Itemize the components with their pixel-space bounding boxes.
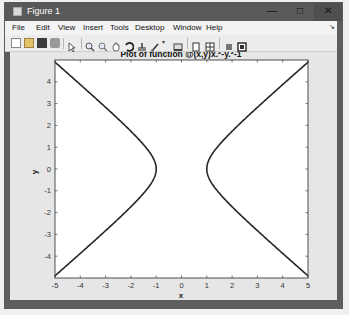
x-tick-label: 5 <box>306 281 310 290</box>
x-tick-label: 0 <box>179 281 183 290</box>
y-tick-label: 3 <box>47 99 51 108</box>
toolbar-separator <box>187 38 188 49</box>
x-axis-label: x <box>179 291 184 300</box>
window-border-bottom <box>5 300 342 308</box>
y-tick-label: 0 <box>47 165 51 174</box>
x-tick-label: -1 <box>153 281 160 290</box>
x-tick-label: 1 <box>205 281 209 290</box>
menu-file[interactable]: File <box>12 23 25 32</box>
figure-window: Figure 1 — □ ✕ File Edit View Insert Too… <box>5 3 342 308</box>
hide-plot-tools-icon[interactable] <box>224 38 234 48</box>
toolbar-separator <box>81 38 82 49</box>
y-tick-label: -3 <box>44 230 51 239</box>
insert-legend-icon[interactable] <box>205 38 215 48</box>
axes-box <box>55 60 308 278</box>
chart-title: Plot of function @(x,y)x.2-y.2-1 <box>120 52 241 59</box>
insert-colorbar-icon[interactable] <box>191 38 201 48</box>
show-plot-tools-icon[interactable] <box>237 38 247 48</box>
x-tick-label: -4 <box>77 281 84 290</box>
toolbar-separator <box>63 38 64 49</box>
y-tick-label: -1 <box>44 186 51 195</box>
y-tick-label: 2 <box>47 121 51 130</box>
close-icon: ✕ <box>314 5 342 16</box>
window-title: Figure 1 <box>27 6 60 16</box>
minimize-icon: — <box>258 5 286 16</box>
x-tick-label: 2 <box>230 281 234 290</box>
brush-icon[interactable] <box>150 38 160 48</box>
close-button[interactable]: ✕ <box>314 3 342 21</box>
figure-canvas: -5-4-3-2-1012345 -4-3-2-101234 Plot of f… <box>10 52 337 300</box>
menu-edit[interactable]: Edit <box>36 23 50 32</box>
x-tick-label: -3 <box>102 281 109 290</box>
link-plot-icon[interactable] <box>173 38 183 48</box>
menu-tools[interactable]: Tools <box>110 23 129 32</box>
edit-plot-arrow-icon[interactable] <box>67 38 77 48</box>
y-tick-label: -2 <box>44 208 51 217</box>
maximize-icon: □ <box>286 5 314 16</box>
zoom-in-icon[interactable] <box>85 38 95 48</box>
y-tick-label: -4 <box>44 252 51 261</box>
pan-hand-icon[interactable] <box>111 38 121 48</box>
new-figure-icon[interactable] <box>11 38 21 48</box>
plot-axes[interactable]: -5-4-3-2-1012345 -4-3-2-101234 Plot of f… <box>10 52 337 300</box>
dock-figure-icon[interactable]: ↘ <box>329 23 335 31</box>
rotate-3d-icon[interactable] <box>124 38 134 48</box>
maximize-button[interactable]: □ <box>286 3 314 21</box>
window-border-right <box>337 21 342 308</box>
menu-view[interactable]: View <box>58 23 75 32</box>
matlab-figure-icon <box>13 7 22 16</box>
data-cursor-icon[interactable] <box>137 38 147 48</box>
x-tick-label: 3 <box>255 281 259 290</box>
open-file-icon[interactable] <box>24 38 34 48</box>
menu-insert[interactable]: Insert <box>83 23 103 32</box>
menu-bar: File Edit View Insert Tools Desktop Wind… <box>5 21 342 35</box>
toolbar-separator <box>219 38 220 49</box>
y-axis-label: y <box>30 169 39 174</box>
print-figure-icon[interactable] <box>50 38 60 48</box>
title-bar[interactable]: Figure 1 — □ ✕ <box>5 3 342 21</box>
figure-toolbar: ▾ <box>5 35 342 52</box>
window-border-left <box>5 52 10 308</box>
menu-window[interactable]: Window <box>173 23 201 32</box>
x-tick-label: -2 <box>128 281 135 290</box>
brush-dropdown-icon[interactable]: ▾ <box>162 38 168 48</box>
x-tick-label: 4 <box>281 281 285 290</box>
y-tick-label: 1 <box>47 143 51 152</box>
y-tick-label: 4 <box>47 77 51 86</box>
x-tick-label: -5 <box>52 281 59 290</box>
menu-desktop[interactable]: Desktop <box>135 23 164 32</box>
save-figure-icon[interactable] <box>37 38 47 48</box>
minimize-button[interactable]: — <box>258 3 286 21</box>
menu-help[interactable]: Help <box>206 23 222 32</box>
zoom-out-icon[interactable] <box>98 38 108 48</box>
